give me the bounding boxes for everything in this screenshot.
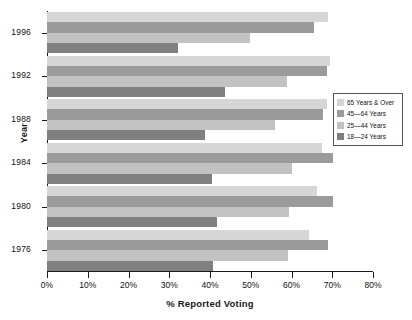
x-axis-tick-label: 20% bbox=[109, 280, 149, 290]
bar-row bbox=[47, 186, 373, 196]
x-axis-tick-label: 40% bbox=[190, 280, 230, 290]
y-axis-tick-label: 1996 bbox=[0, 27, 31, 37]
bar-chart: Year 197619801984198819921996 0%10%20%30… bbox=[0, 0, 412, 320]
bar-group bbox=[47, 143, 373, 184]
bar[interactable] bbox=[47, 153, 333, 163]
bar-row bbox=[47, 76, 373, 86]
y-axis-tick-label: 1988 bbox=[0, 114, 31, 124]
legend-item[interactable]: 25—44 Years bbox=[337, 120, 400, 131]
bar[interactable] bbox=[47, 43, 178, 53]
bar[interactable] bbox=[47, 196, 333, 206]
bar-row bbox=[47, 99, 373, 109]
legend-item-label: 18—24 Years bbox=[347, 133, 386, 140]
bar[interactable] bbox=[47, 33, 250, 43]
x-axis-tick-label: 10% bbox=[68, 280, 108, 290]
bar-row bbox=[47, 143, 373, 153]
bar-row bbox=[47, 230, 373, 240]
bar[interactable] bbox=[47, 261, 213, 271]
bar-row bbox=[47, 43, 373, 53]
y-axis-tick-label: 1976 bbox=[0, 244, 31, 254]
legend-swatch-icon bbox=[337, 122, 344, 129]
legend-swatch-icon bbox=[337, 133, 344, 140]
bar-group bbox=[47, 186, 373, 227]
bar[interactable] bbox=[47, 240, 328, 250]
bar-row bbox=[47, 163, 373, 173]
y-axis-tick-label: 1984 bbox=[0, 157, 31, 167]
x-axis-tick bbox=[251, 272, 252, 278]
x-axis-tick bbox=[292, 272, 293, 278]
bar[interactable] bbox=[47, 130, 205, 140]
bar-row bbox=[47, 120, 373, 130]
bar-row bbox=[47, 87, 373, 97]
bar[interactable] bbox=[47, 76, 287, 86]
bar-row bbox=[47, 217, 373, 227]
y-axis-tick-label: 1980 bbox=[0, 201, 31, 211]
bar[interactable] bbox=[47, 143, 322, 153]
bar[interactable] bbox=[47, 87, 225, 97]
bar-row bbox=[47, 130, 373, 140]
bar[interactable] bbox=[47, 109, 323, 119]
x-axis-tick-label: 30% bbox=[149, 280, 189, 290]
legend-item[interactable]: 45—64 Years bbox=[337, 109, 400, 120]
legend-item-label: 65 Years & Over bbox=[347, 99, 394, 106]
x-axis-tick-label: 0% bbox=[27, 280, 67, 290]
bar[interactable] bbox=[47, 230, 309, 240]
bar-row bbox=[47, 207, 373, 217]
legend-item-label: 25—44 Years bbox=[347, 122, 386, 129]
legend-swatch-icon bbox=[337, 110, 344, 117]
bar[interactable] bbox=[47, 120, 275, 130]
bar-row bbox=[47, 240, 373, 250]
legend-item[interactable]: 18—24 Years bbox=[337, 132, 400, 143]
bar[interactable] bbox=[47, 163, 292, 173]
bar[interactable] bbox=[47, 250, 288, 260]
bar-row bbox=[47, 250, 373, 260]
x-axis-tick bbox=[210, 272, 211, 278]
y-axis-tick-label: 1992 bbox=[0, 70, 31, 80]
bar[interactable] bbox=[47, 66, 327, 76]
bar[interactable] bbox=[47, 12, 328, 22]
bar[interactable] bbox=[47, 56, 330, 66]
legend-swatch-icon bbox=[337, 99, 344, 106]
legend-item-label: 45—64 Years bbox=[347, 110, 386, 117]
x-axis-tick bbox=[373, 272, 374, 278]
x-axis-tick-label: 80% bbox=[353, 280, 393, 290]
bar-group bbox=[47, 230, 373, 271]
bar[interactable] bbox=[47, 99, 327, 109]
bar-row bbox=[47, 261, 373, 271]
bar-row bbox=[47, 22, 373, 32]
bar-group bbox=[47, 99, 373, 140]
x-axis-tick bbox=[332, 272, 333, 278]
bar[interactable] bbox=[47, 217, 217, 227]
x-axis-tick bbox=[47, 272, 48, 278]
bar[interactable] bbox=[47, 186, 317, 196]
bar-row bbox=[47, 12, 373, 22]
y-axis-title: Year bbox=[19, 103, 29, 163]
bar-row bbox=[47, 153, 373, 163]
bar[interactable] bbox=[47, 22, 314, 32]
legend: 65 Years & Over45—64 Years25—44 Years18—… bbox=[333, 93, 403, 146]
x-axis-tick bbox=[88, 272, 89, 278]
x-axis-title: % Reported Voting bbox=[47, 298, 373, 309]
bar-row bbox=[47, 66, 373, 76]
bar-group bbox=[47, 12, 373, 53]
x-axis-tick bbox=[129, 272, 130, 278]
bar-row bbox=[47, 109, 373, 119]
bar[interactable] bbox=[47, 174, 212, 184]
x-axis-tick-label: 60% bbox=[272, 280, 312, 290]
x-axis-tick-label: 70% bbox=[312, 280, 352, 290]
legend-item[interactable]: 65 Years & Over bbox=[337, 97, 400, 108]
bar-group bbox=[47, 56, 373, 97]
x-axis-tick-label: 50% bbox=[231, 280, 271, 290]
x-axis-tick bbox=[169, 272, 170, 278]
bar-row bbox=[47, 174, 373, 184]
bar-row bbox=[47, 33, 373, 43]
bar[interactable] bbox=[47, 207, 289, 217]
bar-row bbox=[47, 196, 373, 206]
bar-row bbox=[47, 56, 373, 66]
